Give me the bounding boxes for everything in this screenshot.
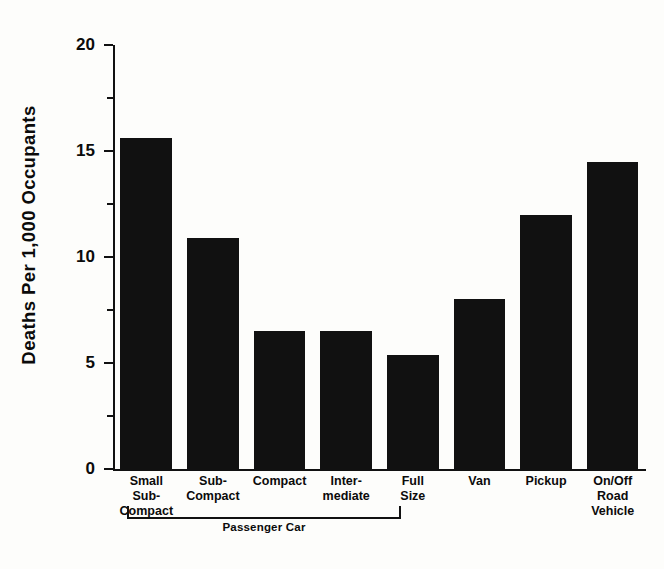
x-axis-label: Inter-mediate (313, 474, 380, 504)
x-axis-label-line: Road (579, 489, 646, 504)
bracket-line (127, 517, 401, 519)
bracket-right-tip (399, 506, 401, 519)
x-axis-label: On/OffRoadVehicle (579, 474, 646, 519)
x-axis-label-line: Size (380, 489, 447, 504)
y-tick-label: 5 (55, 353, 95, 373)
x-axis-label-line: Small (130, 474, 163, 488)
x-axis-label-line: Pickup (526, 474, 567, 488)
y-tick-major (104, 468, 113, 470)
x-axis-label: Compact (246, 474, 313, 489)
y-axis-title-text: Deaths Per 1,000 Occupants (18, 105, 40, 364)
bar[interactable] (320, 331, 372, 469)
bar[interactable] (120, 138, 172, 469)
x-axis-label-line: Van (468, 474, 490, 488)
passenger-car-label: Passenger Car (127, 521, 401, 533)
x-axis-label: Pickup (513, 474, 580, 489)
y-tick-label: 0 (55, 459, 95, 479)
x-axis-label-line: Inter- (331, 474, 362, 488)
y-tick-major (104, 44, 113, 46)
y-tick-major (104, 150, 113, 152)
x-axis-label-line: Sub- (113, 489, 180, 504)
x-axis-label: FullSize (380, 474, 447, 504)
x-axis-label-line: Compact (180, 489, 247, 504)
bar[interactable] (254, 331, 306, 469)
chart-page: Deaths Per 1,000 Occupants 05101520 Smal… (0, 0, 664, 569)
x-axis-label-line: Full (402, 474, 424, 488)
y-tick-label: 20 (55, 35, 95, 55)
bar[interactable] (454, 299, 506, 469)
y-tick-major (104, 362, 113, 364)
x-axis-label-line: Vehicle (579, 504, 646, 519)
x-axis-label-line: On/Off (593, 474, 632, 488)
x-axis-label: Van (446, 474, 513, 489)
passenger-car-bracket (127, 505, 401, 519)
y-tick-label: 10 (55, 247, 95, 267)
bar[interactable] (520, 215, 572, 469)
y-axis-title: Deaths Per 1,000 Occupants (0, 0, 58, 470)
y-tick-label: 15 (55, 141, 95, 161)
x-axis-label-line: mediate (313, 489, 380, 504)
bar[interactable] (387, 355, 439, 469)
x-axis-label-line: Sub- (199, 474, 227, 488)
x-axis-label: Sub-Compact (180, 474, 247, 504)
bar-series (113, 45, 646, 470)
bar[interactable] (187, 238, 239, 469)
x-axis-label-line: Compact (253, 474, 306, 488)
bar[interactable] (587, 162, 639, 469)
y-tick-major (104, 256, 113, 258)
plot-area: 05101520 (113, 45, 646, 470)
